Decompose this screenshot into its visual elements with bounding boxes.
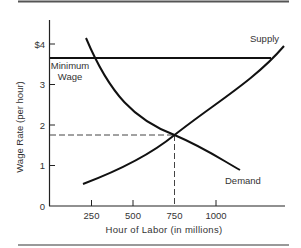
- x-tick-1000: 1000: [205, 210, 226, 221]
- y-tick-0: 0: [40, 201, 45, 212]
- x-ticks: [92, 200, 217, 206]
- wage-chart: $4 3 2 1 0 250 500 750 1000 Hour of Labo…: [0, 0, 301, 248]
- x-tick-250: 250: [84, 210, 100, 221]
- x-tick-500: 500: [125, 210, 141, 221]
- x-axis-label: Hour of Labor (in millions): [106, 224, 223, 235]
- y-tick-3: 3: [40, 79, 45, 90]
- y-tick-1: 1: [40, 160, 45, 171]
- minimum-wage-label-line1: Minimum: [51, 60, 90, 71]
- y-tick-4: $4: [34, 39, 45, 50]
- x-tick-750: 750: [167, 210, 183, 221]
- y-tick-2: 2: [40, 120, 45, 131]
- supply-label: Supply: [250, 33, 279, 44]
- minimum-wage-label-line2: Wage: [58, 71, 82, 82]
- demand-label: Demand: [225, 175, 261, 186]
- supply-curve: [83, 46, 284, 184]
- y-axis-label: Wage Rate (per hour): [14, 81, 25, 173]
